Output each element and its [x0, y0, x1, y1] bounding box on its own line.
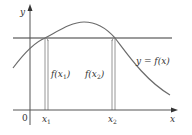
x-axis-arrow-icon: [171, 108, 178, 113]
x-axis-label: x: [170, 114, 175, 124]
y-axis-label: y: [19, 7, 26, 17]
bar-x2: [112, 38, 115, 110]
bar-x1: [45, 38, 48, 110]
origin-label: 0: [22, 113, 28, 123]
x1-label: x1: [42, 114, 51, 125]
f-x2-label: f(x2): [84, 69, 105, 80]
x2-label: x2: [108, 114, 117, 125]
y-axis-arrow-icon: [28, 4, 33, 11]
curve-label: y = f(x): [135, 56, 170, 66]
f-x1-label: f(x1): [50, 69, 71, 80]
function-graph: y x 0 y = f(x) x1 x2 f(x1) f(x2): [0, 0, 192, 135]
